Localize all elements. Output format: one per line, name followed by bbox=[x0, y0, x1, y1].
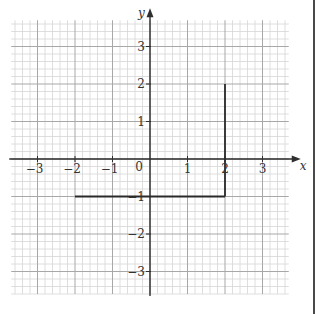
y-tick-label: −2 bbox=[127, 227, 145, 241]
y-axis-arrow-icon bbox=[147, 8, 154, 17]
origin-label: 0 bbox=[135, 160, 143, 174]
x-axis-label: x bbox=[300, 159, 307, 173]
y-tick-label: 1 bbox=[137, 115, 145, 129]
page-edge-border bbox=[313, 0, 315, 314]
y-tick-label: −3 bbox=[127, 265, 145, 279]
y-tick-label: −1 bbox=[127, 190, 145, 204]
axes bbox=[9, 8, 301, 296]
graph-figure: −3−2−1123321−1−2−30xy bbox=[0, 0, 317, 314]
coordinate-grid-plot: −3−2−1123321−1−2−30xy bbox=[0, 0, 317, 314]
x-tick-label: −2 bbox=[63, 162, 81, 176]
y-tick-label: 2 bbox=[137, 77, 145, 91]
x-tick-label: 3 bbox=[259, 162, 267, 176]
x-tick-label: −1 bbox=[101, 162, 119, 176]
x-tick-label: −3 bbox=[26, 162, 44, 176]
y-tick-label: 3 bbox=[137, 40, 145, 54]
x-tick-label: 2 bbox=[221, 162, 229, 176]
x-tick-label: 1 bbox=[184, 162, 192, 176]
y-axis-label: y bbox=[137, 6, 145, 20]
